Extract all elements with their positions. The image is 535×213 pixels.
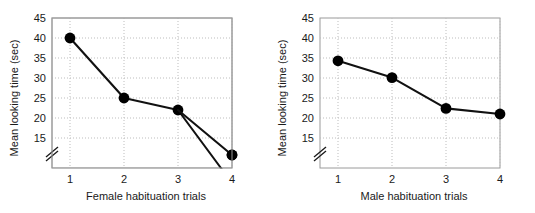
y-tick-labels: 45 40 35 30 25 20 15 bbox=[302, 12, 314, 144]
x-tick-label: 2 bbox=[389, 173, 395, 185]
y-tick-label: 25 bbox=[302, 92, 314, 104]
data-point[interactable] bbox=[495, 109, 506, 120]
y-tick-labels: 45 40 35 30 25 20 15 bbox=[34, 12, 46, 144]
x-tick-label: 3 bbox=[443, 173, 449, 185]
x-tick-labels: 1 2 3 4 bbox=[335, 173, 503, 185]
y-tick-label: 25 bbox=[34, 92, 46, 104]
x-axis-title: Female habituation trials bbox=[86, 190, 206, 202]
y-tick-label: 40 bbox=[34, 32, 46, 44]
y-tick-label: 45 bbox=[34, 12, 46, 24]
x-tick-label: 3 bbox=[175, 173, 181, 185]
data-point[interactable] bbox=[441, 103, 452, 114]
x-tick-label: 4 bbox=[497, 173, 503, 185]
female-chart-svg: Mean looking time (sec) 45 40 35 30 25 2… bbox=[0, 0, 267, 213]
y-tick-label: 20 bbox=[34, 112, 46, 124]
data-point[interactable] bbox=[387, 72, 398, 83]
x-axis-title: Male habituation trials bbox=[360, 190, 468, 202]
x-tick-label: 2 bbox=[121, 173, 127, 185]
x-tick-label: 4 bbox=[229, 173, 235, 185]
chart-panel-female: Mean looking time (sec) 45 40 35 30 25 2… bbox=[0, 0, 267, 213]
y-tick-label: 35 bbox=[34, 52, 46, 64]
figure-panels: Mean looking time (sec) 45 40 35 30 25 2… bbox=[0, 0, 535, 213]
y-tick-label: 45 bbox=[302, 12, 314, 24]
y-tick-label: 40 bbox=[302, 32, 314, 44]
y-axis-title: Mean looking time (sec) bbox=[276, 40, 288, 157]
x-tick-label: 1 bbox=[335, 173, 341, 185]
y-tick-label: 20 bbox=[302, 112, 314, 124]
chart-panel-male: Mean looking time (sec) 45 40 35 30 25 2… bbox=[268, 0, 535, 213]
data-point[interactable] bbox=[119, 93, 130, 104]
y-tick-label: 30 bbox=[302, 72, 314, 84]
plot-frame bbox=[320, 18, 500, 168]
y-tick-label: 35 bbox=[302, 52, 314, 64]
y-axis-title: Mean looking time (sec) bbox=[8, 40, 20, 157]
y-tick-label: 30 bbox=[34, 72, 46, 84]
x-tick-label: 1 bbox=[67, 173, 73, 185]
data-point[interactable] bbox=[65, 33, 76, 44]
y-tick-label: 15 bbox=[302, 132, 314, 144]
y-tick-label: 15 bbox=[34, 132, 46, 144]
male-chart-svg: Mean looking time (sec) 45 40 35 30 25 2… bbox=[268, 0, 535, 213]
data-point[interactable] bbox=[333, 55, 344, 66]
